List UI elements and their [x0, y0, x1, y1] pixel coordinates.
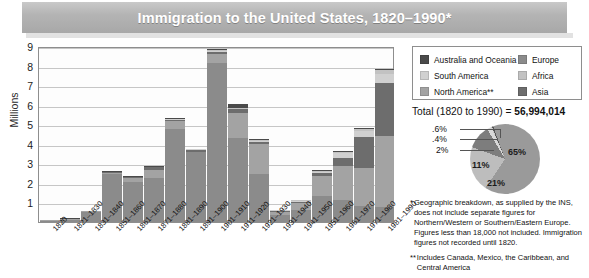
footnote-text: Includes Canada, Mexico, the Caribbean, …	[417, 253, 588, 273]
footnote: **Includes Canada, Mexico, the Caribbean…	[410, 253, 588, 273]
legend-label: Europe	[532, 55, 559, 65]
legend-label: Africa	[532, 71, 553, 81]
total-prefix: Total (1820 to 1990) =	[412, 106, 514, 117]
pie-slice-label-asia: 11%	[472, 160, 490, 170]
pie-slice-label-north-america: 21%	[487, 178, 505, 188]
legend-column-left: Australia and OceaniaSouth AmericaNorth …	[420, 52, 516, 100]
bar-segment	[165, 121, 185, 129]
bar-1901-1910[interactable]	[207, 49, 227, 222]
page-title: Immigration to the United States, 1820–1…	[138, 10, 452, 26]
bar-segment	[312, 176, 332, 196]
bar-segment	[144, 170, 164, 178]
pie-callout-south-america: 2%	[436, 145, 448, 155]
y-tick-6: 6	[21, 100, 33, 112]
legend-swatch-icon	[420, 55, 429, 64]
bar-segment	[354, 137, 374, 168]
legend-swatch-icon	[518, 71, 527, 80]
total-value: 56,994,014	[514, 106, 565, 117]
legend-swatch-icon	[420, 71, 429, 80]
legend-swatch-icon	[420, 87, 429, 96]
legend-swatch-icon	[518, 87, 527, 96]
y-tick-7: 7	[21, 80, 33, 92]
bar-segment	[375, 136, 395, 207]
pie-slice-label-europe: 65%	[508, 147, 526, 157]
legend-label: South America	[434, 71, 488, 81]
pie-leader-line	[460, 139, 498, 140]
bar-segment	[333, 166, 353, 200]
legend-label: Australia and Oceania	[434, 55, 516, 65]
bar-segment	[249, 144, 269, 174]
footnote: *Geographic breakdown, as supplied by th…	[410, 198, 588, 248]
bar-series-container	[39, 48, 393, 222]
pie-callout-australia-and-oceania: .6%	[432, 124, 447, 134]
y-tick-1: 1	[21, 197, 33, 209]
legend-item-europe[interactable]: Europe	[518, 52, 559, 67]
plot-area	[38, 47, 394, 223]
pie-leader-line	[500, 129, 501, 138]
footnote-marker: **	[410, 253, 416, 273]
legend-swatch-icon	[518, 55, 527, 64]
y-tick-2: 2	[21, 178, 33, 190]
legend-item-south-america[interactable]: South America	[420, 68, 516, 83]
chart-title-banner: Immigration to the United States, 1820–1…	[22, 2, 567, 33]
legend-item-asia[interactable]: Asia	[518, 84, 559, 99]
total-summary: Total (1820 to 1990) = 56,994,014	[412, 106, 587, 117]
legend-item-africa[interactable]: Africa	[518, 68, 559, 83]
pie-callout-africa: .4%	[432, 134, 447, 144]
legend-label: North America**	[434, 87, 494, 97]
chart-page: Immigration to the United States, 1820–1…	[0, 0, 589, 278]
legend-label: Asia	[532, 87, 548, 97]
y-tick-4: 4	[21, 139, 33, 151]
footnotes: *Geographic breakdown, as supplied by th…	[410, 198, 588, 278]
bar-segment	[228, 113, 248, 137]
legend-item-australia-and-oceania[interactable]: Australia and Oceania	[420, 52, 516, 67]
legend: Australia and OceaniaSouth AmericaNorth …	[412, 46, 582, 100]
y-tick-5: 5	[21, 119, 33, 131]
bar-segment	[207, 63, 227, 222]
legend-item-north-america[interactable]: North America**	[420, 84, 516, 99]
bar-segment	[333, 158, 353, 166]
pie-leader-line	[460, 150, 494, 151]
banner-shadow	[26, 33, 573, 38]
bar-segment	[375, 83, 395, 137]
y-tick-8: 8	[21, 61, 33, 73]
y-tick-3: 3	[21, 158, 33, 170]
y-axis-label: Millions	[8, 80, 20, 140]
footnote-marker: *	[410, 198, 413, 248]
bar-segment	[207, 54, 227, 62]
legend-column-right: EuropeAfricaAsia	[518, 52, 559, 100]
y-tick-9: 9	[21, 41, 33, 53]
footnote-text: Geographic breakdown, as supplied by the…	[414, 198, 588, 248]
pie-leader-line	[460, 129, 500, 130]
bar-segment	[375, 74, 395, 83]
